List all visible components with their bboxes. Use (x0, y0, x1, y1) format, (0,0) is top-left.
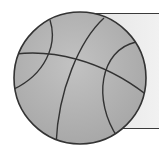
ball-body (14, 12, 146, 144)
basketball-illustration: basketball (0, 0, 159, 148)
basketball-icon (0, 0, 159, 148)
